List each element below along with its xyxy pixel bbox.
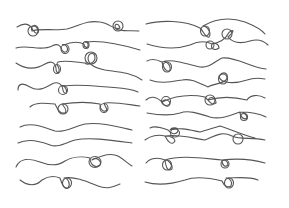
swirl-line [18, 139, 132, 146]
left-column [16, 22, 142, 189]
swirl-line [150, 73, 265, 87]
swirl-line [145, 178, 258, 187]
swirl-lines-group [16, 19, 268, 188]
swirl-line [17, 22, 139, 34]
swirl-line [20, 123, 132, 131]
swirl-line [30, 103, 140, 114]
swirl-line [18, 83, 138, 93]
swirl-line [146, 19, 265, 37]
swirl-line [16, 54, 142, 81]
swirl-line [147, 58, 266, 71]
swirl-line [16, 41, 140, 52]
swirl-divider-illustration [0, 0, 289, 208]
swirl-line [147, 31, 268, 50]
swirl-line [147, 112, 266, 119]
swirl-line [16, 154, 132, 167]
swirl-loop [233, 134, 243, 144]
swirl-loop [206, 41, 214, 49]
